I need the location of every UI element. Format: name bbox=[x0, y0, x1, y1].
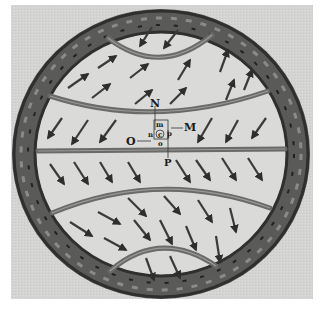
label-o: o bbox=[158, 139, 163, 148]
label-n: n bbox=[148, 130, 153, 139]
label-M: M bbox=[184, 121, 196, 134]
vessel-interior bbox=[37, 32, 285, 276]
label-c: c bbox=[158, 130, 162, 139]
label-p: p bbox=[167, 129, 172, 138]
flow-diagram: N M O P m n c p o bbox=[0, 0, 323, 309]
label-m: m bbox=[156, 120, 164, 129]
label-O: O bbox=[126, 135, 136, 148]
label-N: N bbox=[150, 97, 160, 110]
label-P: P bbox=[164, 157, 172, 168]
